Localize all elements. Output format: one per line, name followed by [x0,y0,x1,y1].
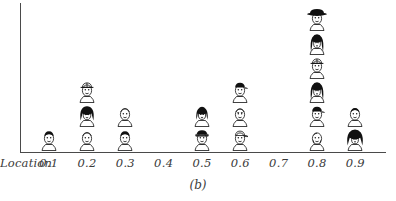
pictogram-column [32,128,66,152]
light-face-icon [112,104,138,128]
dark-hair-face-icon [112,128,138,152]
pictogram-column [300,8,334,152]
light-face-icon [74,128,100,152]
bob-hair-woman-face-icon [189,104,215,128]
hardhat-face-icon [74,80,100,104]
x-axis-tick-label: 0.9 [335,156,375,170]
x-axis-tick-label: 0.4 [144,156,184,170]
long-hair-woman-face-icon [304,32,330,56]
black-bouffant-hair-face-icon [342,128,368,152]
plain-face-icon [227,104,253,128]
plot-area [20,3,386,152]
pictogram-column [338,104,372,152]
pictogram-column [185,104,219,152]
x-axis-tick-label: 0.7 [259,156,299,170]
cowboy-hat-face-icon [304,8,330,32]
pictogram-column [108,104,142,152]
x-axis-line [20,152,386,153]
bald-light-face-icon [304,128,330,152]
dark-cap-face-icon [304,104,330,128]
officer-cap-face-icon [189,128,215,152]
x-axis-tick-label: 0.6 [220,156,260,170]
pictogram-column [223,80,257,152]
figure-caption: (b) [0,178,396,192]
hardhat-face-icon [304,56,330,80]
light-cap-face-icon [227,128,253,152]
dark-hair-face-icon [36,128,62,152]
dark-hair-woman-face-icon [74,104,100,128]
dark-cap-face-icon [227,80,253,104]
pictogram-column [70,80,104,152]
pictogram-histogram-figure: Location (b) 0.10.20.30.40.50.60.70.80.9 [0,0,396,201]
short-hair-face-icon [342,104,368,128]
long-hair-woman-face-icon [304,80,330,104]
x-axis-tick-label: 0.3 [105,156,145,170]
x-axis-tick-label: 0.2 [67,156,107,170]
x-axis-tick-label: 0.5 [182,156,222,170]
x-axis-tick-label: 0.1 [29,156,69,170]
x-axis-tick-label: 0.8 [297,156,337,170]
